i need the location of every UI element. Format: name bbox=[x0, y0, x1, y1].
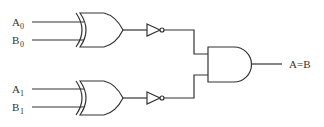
svg-text:0: 0 bbox=[20, 40, 24, 49]
logic-diagram: A 0 B 0 A 1 B 1 bbox=[0, 0, 324, 127]
output-label: A=B bbox=[289, 58, 310, 70]
input-label-a1: A 1 bbox=[12, 83, 24, 98]
svg-text:1: 1 bbox=[20, 107, 24, 116]
svg-text:A: A bbox=[12, 83, 20, 95]
svg-text:B: B bbox=[12, 101, 19, 113]
svg-text:1: 1 bbox=[20, 89, 24, 98]
svg-text:B: B bbox=[12, 34, 19, 46]
wire-not1-out bbox=[164, 75, 208, 98]
not-gate-1 bbox=[147, 92, 164, 104]
xor-gate-1 bbox=[76, 81, 123, 115]
input-label-a0: A 0 bbox=[12, 16, 24, 31]
svg-text:0: 0 bbox=[20, 22, 24, 31]
input-label-b1: B 1 bbox=[12, 101, 24, 116]
not-gate-0 bbox=[147, 24, 164, 36]
xor-gate-0 bbox=[76, 13, 123, 47]
svg-text:A: A bbox=[12, 16, 20, 28]
input-label-b0: B 0 bbox=[12, 34, 24, 49]
wire-not0-out bbox=[164, 30, 208, 54]
and-gate bbox=[208, 47, 252, 82]
